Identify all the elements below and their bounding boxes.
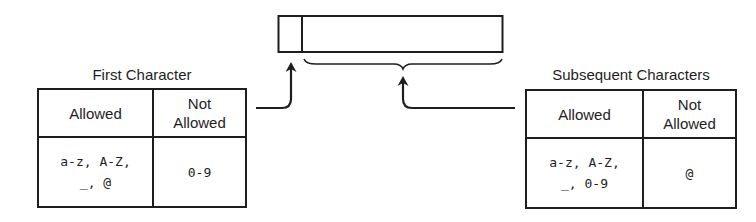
allowed-values: a-z, A-Z, _, @ [38,137,153,207]
not-allowed-values: 0-9 [153,137,246,207]
not-allowed-values: @ [643,138,736,208]
not-allowed-header: Not Allowed [153,89,246,137]
allowed-values-line2: _, 0-9 [527,173,642,194]
allowed-header: Allowed [38,89,153,137]
not-allowed-header-text: Not Allowed [165,94,235,132]
first-character-title: First Character [37,66,247,83]
allowed-values-line2: _, @ [39,172,152,193]
first-character-table: Allowed Not Allowed a-z, A-Z, _, @ 0-9 [37,88,247,208]
subsequent-characters-title: Subsequent Characters [512,66,750,83]
subsequent-characters-brace [304,59,502,69]
not-allowed-header: Not Allowed [643,90,736,138]
identifier-box-outline [279,16,503,52]
identifier-box [279,16,503,52]
not-allowed-header-text: Not Allowed [655,95,725,133]
allowed-values: a-z, A-Z, _, 0-9 [526,138,643,208]
subsequent-characters-table: Allowed Not Allowed a-z, A-Z, _, 0-9 @ [525,89,737,209]
allowed-header: Allowed [526,90,643,138]
allowed-values-line1: a-z, A-Z, [39,151,152,172]
allowed-values-line1: a-z, A-Z, [527,152,642,173]
subsequent-characters-arrow [403,82,515,108]
first-character-arrow [256,68,291,108]
